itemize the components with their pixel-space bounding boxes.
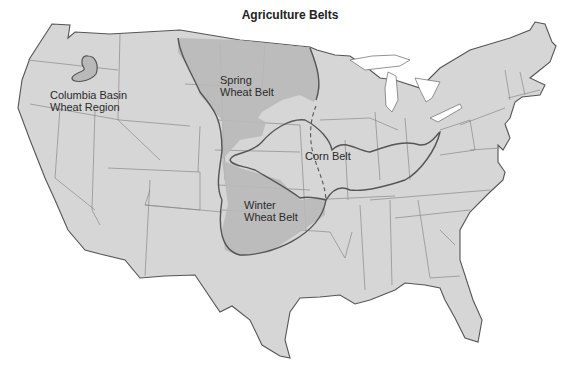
- label-line: Wheat Belt: [244, 211, 298, 223]
- label-corn-belt: Corn Belt: [305, 150, 351, 162]
- label-winter-wheat: Winter Wheat Belt: [244, 199, 298, 223]
- map-title: Agriculture Belts: [0, 8, 580, 22]
- label-spring-wheat: Spring Wheat Belt: [220, 74, 274, 98]
- us-map: [0, 0, 580, 376]
- label-line: Wheat Belt: [220, 86, 274, 98]
- label-line: Wheat Region: [50, 101, 127, 113]
- label-line: Corn Belt: [305, 150, 351, 162]
- label-line: Columbia Basin: [50, 89, 127, 101]
- label-line: Winter: [244, 199, 298, 211]
- label-columbia-basin: Columbia Basin Wheat Region: [50, 89, 127, 113]
- label-line: Spring: [220, 74, 274, 86]
